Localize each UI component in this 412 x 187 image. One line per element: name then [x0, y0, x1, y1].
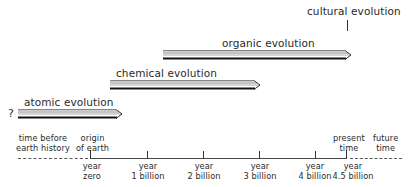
tick-2-billion [203, 151, 204, 158]
origin-of-earth-label: origin of earth [76, 133, 109, 153]
tick-year-zero [90, 150, 91, 159]
tick-label-3-billion: year 3 billion [240, 161, 280, 181]
tick-label-2-billion: year 2 billion [184, 161, 224, 181]
tick-4-5-billion [346, 150, 347, 158]
time-before-earth-history-label: time before earth history [16, 133, 70, 153]
tick-1-billion [147, 151, 148, 158]
chemical-evolution-label: chemical evolution [116, 67, 217, 79]
tick-label-year-zero: year zero [80, 161, 104, 181]
tick-label-1-billion: year 1 billion [128, 161, 168, 181]
present-time-label: present time [333, 133, 365, 153]
future-time-label: future time [373, 133, 398, 153]
unknown-start-marker: ? [8, 107, 14, 120]
tick-label-4-5-billion: year 4.5 billion [331, 161, 375, 181]
timeline-future-dashed [350, 158, 402, 159]
timeline-axis [90, 158, 347, 159]
cultural-evolution-tick [347, 20, 348, 31]
tick-label-4-billion: year 4 billion [295, 161, 335, 181]
atomic-evolution-label: atomic evolution [24, 96, 114, 108]
organic-evolution-label: organic evolution [222, 37, 315, 49]
organic-evolution-arrow [163, 50, 351, 58]
tick-3-billion [259, 151, 260, 158]
cultural-evolution-label: cultural evolution [307, 5, 401, 17]
chemical-evolution-arrow [110, 80, 260, 88]
timeline-past-dashed [18, 158, 88, 159]
tick-4-billion [315, 151, 316, 158]
atomic-evolution-arrow [18, 109, 122, 117]
